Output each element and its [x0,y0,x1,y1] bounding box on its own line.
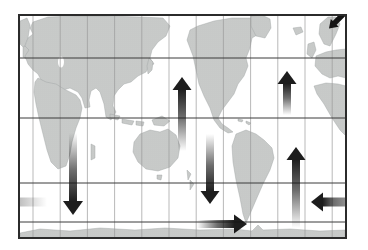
north-atlantic-upwelling-arrow-shaft [283,84,291,115]
southern-ocean-eastward-arrow-shaft [197,220,234,228]
westward-arrow-continuation-band-band [19,198,47,207]
westward-arrow-continuation-band [19,198,47,207]
east-pacific-downwelling-arrow-shaft [206,134,214,191]
ocean-circulation-map-figure [0,0,368,250]
north-pacific-upwelling-arrow-shaft [178,90,186,151]
landmass-madagascar [91,144,95,160]
landmass-tasmania [157,175,162,180]
world-map [0,0,368,250]
indian-ocean-downwelling-arrow-shaft [69,133,77,201]
south-atlantic-westward-arrow-shaft [323,198,347,207]
landmass-indonesia-3 [136,121,144,126]
south-atlantic-upwelling-arrow-shaft [292,160,300,228]
